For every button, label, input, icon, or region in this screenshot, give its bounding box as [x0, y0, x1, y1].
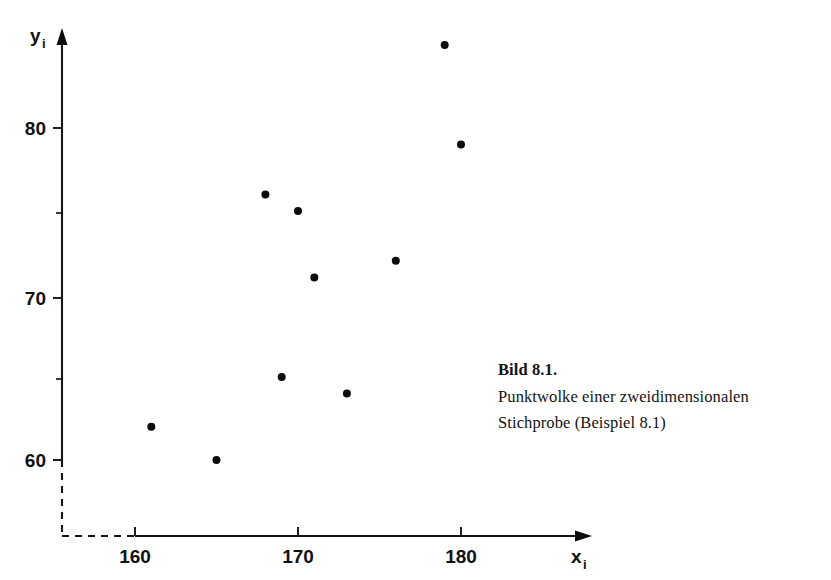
figure-caption: Bild 8.1. Punktwolke einer zweidimension… — [498, 357, 818, 437]
x-axis-ticks — [135, 527, 461, 536]
y-tick-label-70: 70 — [25, 288, 46, 309]
x-axis — [62, 531, 592, 542]
x-axis-label: x i — [571, 546, 587, 572]
caption-line-2: Stichprobe (Beispiel 8.1) — [498, 410, 818, 437]
figure-page: 80 70 60 160 170 180 y i x i Bild 8.1. P… — [0, 0, 831, 580]
y-axis-label-base: y — [30, 25, 41, 46]
x-axis-label-base: x — [571, 546, 582, 567]
data-point — [392, 257, 400, 265]
y-axis-ticks — [53, 128, 62, 460]
data-point — [213, 456, 221, 464]
y-axis-label-subscript: i — [42, 36, 46, 51]
data-point — [310, 273, 318, 281]
data-point — [294, 207, 302, 215]
x-tick-label-170: 170 — [282, 546, 314, 567]
y-tick-label-60: 60 — [25, 450, 46, 471]
caption-title: Bild 8.1. — [498, 357, 818, 384]
x-tick-label-180: 180 — [445, 546, 477, 567]
x-axis-arrowhead — [575, 531, 592, 542]
caption-line-1: Punktwolke einer zweidimensionalen — [498, 384, 818, 411]
data-point — [278, 373, 286, 381]
data-point — [441, 41, 449, 49]
scatter-plot-figure: 80 70 60 160 170 180 y i x i — [0, 0, 831, 580]
data-point — [261, 190, 269, 198]
y-axis-label: y i — [30, 25, 46, 51]
y-axis-arrowhead — [57, 28, 68, 45]
data-point — [457, 141, 465, 149]
x-tick-label-160: 160 — [119, 546, 151, 567]
x-axis-label-subscript: i — [583, 557, 587, 572]
data-points-layer — [147, 41, 465, 464]
data-point — [147, 423, 155, 431]
data-point — [343, 390, 351, 398]
y-tick-label-80: 80 — [25, 118, 46, 139]
